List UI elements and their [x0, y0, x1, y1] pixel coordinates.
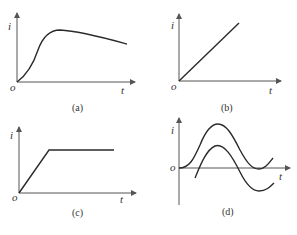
caption: (a) [72, 102, 83, 114]
origin-label: o [10, 81, 16, 93]
origin-label: o [171, 80, 177, 92]
x-axis-label: t [269, 84, 273, 96]
caption: (c) [72, 207, 83, 219]
curve-upper [179, 124, 273, 169]
caption: (b) [221, 102, 233, 114]
curve [17, 30, 127, 82]
x-axis-label: t [120, 193, 124, 205]
panel-b: i o t (b) [171, 14, 281, 114]
y-axis-label: i [8, 20, 11, 32]
curve [19, 150, 114, 193]
origin-label: o [12, 191, 18, 203]
panel-a: i o t (a) [8, 13, 135, 114]
panel-d: i o t (d) [170, 118, 290, 218]
panel-c: i o t (c) [10, 127, 136, 219]
origin-label: o [170, 161, 176, 173]
caption: (d) [222, 206, 234, 218]
y-axis-label: i [171, 124, 174, 136]
curve [179, 23, 239, 81]
y-axis-label: i [171, 19, 174, 31]
x-axis-label: t [279, 170, 283, 182]
x-axis-label: t [121, 84, 125, 96]
current-waveform-diagrams: i o t (a) i o t (b) i o t (c) i o t (d) [0, 0, 297, 235]
y-axis-label: i [10, 129, 13, 141]
